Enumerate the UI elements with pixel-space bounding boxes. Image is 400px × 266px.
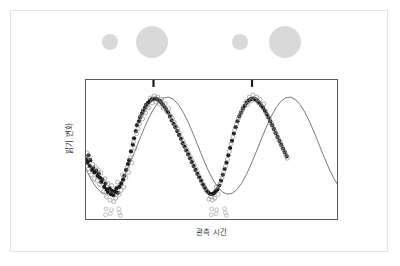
contracted-star-2-disk [232, 34, 248, 50]
data-point [115, 180, 119, 184]
data-point [226, 153, 230, 157]
data-point [124, 168, 128, 172]
contracted-star-1-disk [102, 34, 118, 50]
data-point [89, 173, 93, 177]
data-point [119, 188, 123, 192]
data-point [114, 196, 118, 200]
data-point [209, 213, 213, 217]
data-point [117, 207, 121, 211]
data-point [225, 157, 229, 161]
series-low-outliers [104, 207, 229, 218]
plot-area [85, 79, 338, 220]
data-point [121, 178, 125, 182]
expanded-star-1-disk [136, 26, 168, 58]
data-point [104, 195, 108, 199]
data-point [86, 167, 90, 171]
data-point [100, 178, 104, 182]
data-point [214, 212, 218, 216]
data-point [88, 158, 92, 162]
data-point [104, 207, 108, 211]
error-bar-mark [152, 80, 154, 87]
error-bar-mark [251, 80, 253, 87]
data-point [215, 208, 219, 212]
scatter-plot-svg [86, 80, 338, 220]
data-point [122, 185, 126, 189]
data-point [108, 212, 112, 216]
y-axis-label: 밝기 변화 [62, 108, 78, 168]
data-point [136, 127, 140, 131]
data-point [227, 149, 231, 153]
data-point [215, 187, 219, 191]
star-size-phase-strip [85, 20, 338, 68]
phase-disks-svg [85, 20, 338, 68]
data-point [127, 158, 131, 162]
data-point [110, 208, 114, 212]
data-point [223, 207, 227, 211]
expanded-star-2-disk [269, 26, 301, 58]
series-top-error-marks [152, 80, 253, 87]
x-axis-label: 관측 시간 [85, 226, 338, 237]
light-curve-figure: 밝기 변화 관측 시간 [0, 0, 400, 266]
data-point [129, 149, 133, 153]
data-point [110, 184, 114, 188]
data-point [127, 170, 131, 174]
data-point [210, 207, 214, 211]
data-point [104, 213, 108, 217]
data-point [216, 192, 220, 196]
data-point [231, 135, 235, 139]
